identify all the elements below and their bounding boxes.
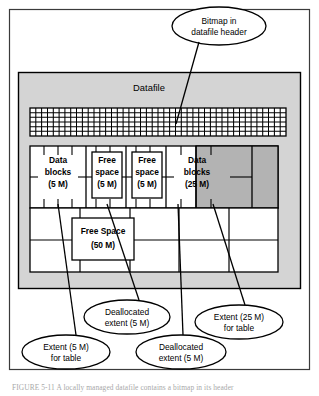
extent-25m-ellipse (195, 305, 283, 339)
free-space-50m-label-box (72, 218, 134, 260)
diagram-vector-layer (0, 0, 319, 396)
bitmap-grid (30, 108, 286, 136)
figure-caption: FIGURE 5-11 A locally managed datafile c… (12, 384, 312, 395)
deallocated-extent-lower-ellipse (136, 335, 226, 369)
free-space-region (30, 208, 278, 272)
bitmap-callout-ellipse (172, 7, 266, 45)
extent-free-space-5m-b-label-box (132, 152, 162, 198)
deallocated-extent-upper-ellipse (84, 300, 170, 334)
figure-canvas: Datafile Bitmap in datafile header Data … (0, 0, 319, 396)
extent-free-space-5m-a-label-box (92, 152, 122, 198)
extent-5m-ellipse (22, 335, 110, 369)
